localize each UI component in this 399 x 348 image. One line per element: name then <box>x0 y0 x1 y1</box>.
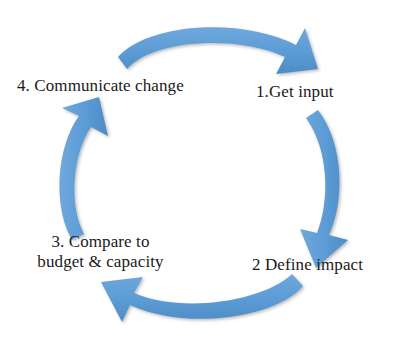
arrow-left <box>59 97 108 240</box>
arrow-top <box>118 27 318 74</box>
step-label-1: 1.Get input <box>256 82 334 102</box>
arrow-right <box>300 110 348 268</box>
step-label-4: 4. Communicate change <box>17 76 184 96</box>
step-label-3-line2: budget & capacity <box>37 252 163 271</box>
cycle-diagram: 1.Get input 2 Define impact 3. Compare t… <box>0 0 399 348</box>
cycle-arrows-graphic <box>0 0 399 348</box>
step-label-2: 2 Define impact <box>252 255 363 275</box>
step-label-3: 3. Compare tobudget & capacity <box>18 232 183 272</box>
arrow-bottom <box>101 274 303 322</box>
step-label-3-line1: 3. Compare to <box>51 232 149 251</box>
